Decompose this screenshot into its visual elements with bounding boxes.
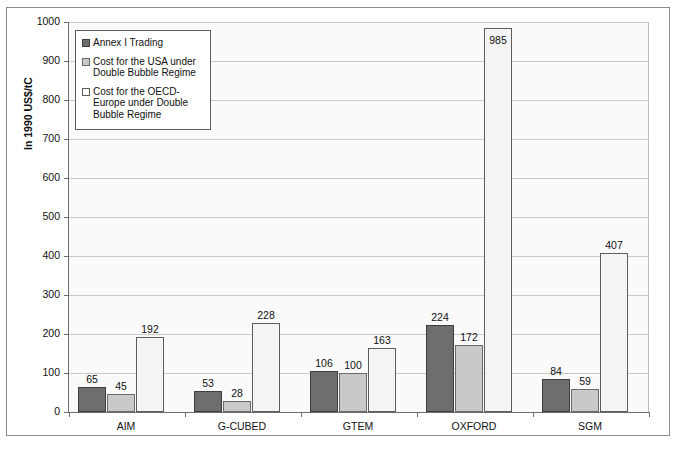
x-tick-mark-end <box>649 412 650 417</box>
y-tick-mark-500 <box>64 217 69 218</box>
bar-group-sgm: 8459407 <box>542 22 628 412</box>
legend-item-2[interactable]: Cost for the OECD-Europe under Double Bu… <box>82 86 203 121</box>
x-tick-mark-4 <box>533 412 534 417</box>
legend-item-0[interactable]: Annex I Trading <box>82 37 203 49</box>
bar-gtem-series-1[interactable] <box>339 373 367 412</box>
bar-gtem-series-0[interactable] <box>310 371 338 412</box>
legend-swatch-icon-usa-double-bubble <box>82 58 90 66</box>
y-tick-mark-800 <box>64 100 69 101</box>
bar-value-label-sgm-series-1: 59 <box>565 375 605 387</box>
bar-oxford-series-1[interactable] <box>455 345 483 412</box>
x-axis-label-g-cubed: G-CUBED <box>184 420 300 432</box>
bar-value-label-g-cubed-series-1: 28 <box>217 387 257 399</box>
bar-oxford-series-2[interactable] <box>484 28 512 412</box>
bar-value-label-oxford-series-1: 172 <box>449 331 489 343</box>
x-tick-mark-2 <box>301 412 302 417</box>
legend-label-0: Annex I Trading <box>93 37 163 49</box>
bar-value-label-oxford-series-0: 224 <box>420 311 460 323</box>
bar-group-oxford: 224172985 <box>426 22 512 412</box>
bar-aim-series-2[interactable] <box>136 337 164 412</box>
legend-swatch-icon-oecd-europe-double-bubble <box>82 88 90 96</box>
x-axis-label-oxford: OXFORD <box>416 420 532 432</box>
bar-g-cubed-series-2[interactable] <box>252 323 280 412</box>
y-tick-mark-900 <box>64 61 69 62</box>
bar-value-label-oxford-series-2: 985 <box>478 34 518 46</box>
chart-figure: In 1990 US$/tC 0100200300400500600700800… <box>0 0 678 450</box>
bar-value-label-g-cubed-series-2: 228 <box>246 309 286 321</box>
bar-value-label-gtem-series-1: 100 <box>333 359 373 371</box>
legend-label-1: Cost for the USA under Double Bubble Reg… <box>93 56 203 79</box>
bar-group-gtem: 106100163 <box>310 22 396 412</box>
legend-swatch-icon-annex-i-trading <box>82 39 90 47</box>
x-axis-label-sgm: SGM <box>532 420 648 432</box>
bar-sgm-series-1[interactable] <box>571 389 599 412</box>
x-axis-label-aim: AIM <box>68 420 184 432</box>
bar-value-label-gtem-series-2: 163 <box>362 334 402 346</box>
x-axis-label-gtem: GTEM <box>300 420 416 432</box>
bar-gtem-series-2[interactable] <box>368 348 396 412</box>
y-tick-mark-100 <box>64 373 69 374</box>
y-tick-mark-1000 <box>64 22 69 23</box>
bar-sgm-series-2[interactable] <box>600 253 628 412</box>
bar-value-label-aim-series-1: 45 <box>101 380 141 392</box>
y-tick-mark-400 <box>64 256 69 257</box>
bar-value-label-aim-series-2: 192 <box>130 323 170 335</box>
legend-label-2: Cost for the OECD-Europe under Double Bu… <box>93 86 203 121</box>
y-tick-mark-700 <box>64 139 69 140</box>
x-tick-mark-3 <box>417 412 418 417</box>
bar-aim-series-1[interactable] <box>107 394 135 412</box>
y-tick-mark-300 <box>64 295 69 296</box>
x-tick-mark-0 <box>69 412 70 417</box>
x-tick-mark-1 <box>185 412 186 417</box>
chart-legend: Annex I Trading Cost for the USA under D… <box>75 30 211 130</box>
y-tick-mark-200 <box>64 334 69 335</box>
y-axis-title: In 1990 US$/tC <box>22 20 34 150</box>
bar-g-cubed-series-1[interactable] <box>223 401 251 412</box>
legend-item-1[interactable]: Cost for the USA under Double Bubble Reg… <box>82 56 203 79</box>
y-tick-mark-600 <box>64 178 69 179</box>
bar-value-label-sgm-series-2: 407 <box>594 239 634 251</box>
